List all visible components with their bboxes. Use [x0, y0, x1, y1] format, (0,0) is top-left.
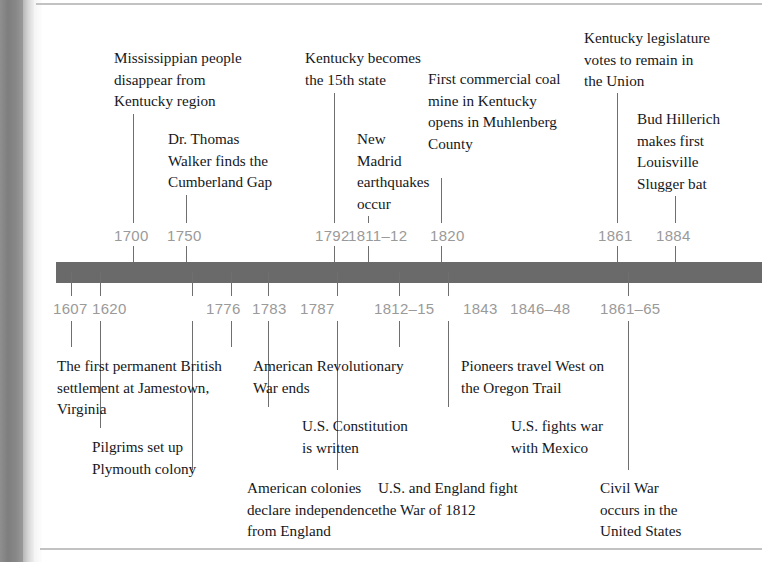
event-above-1861: Kentucky legislature votes to remain in …: [584, 27, 749, 92]
event-above-1750: Dr. Thomas Walker finds the Cumberland G…: [168, 128, 328, 193]
tick-below-1812-15: [337, 272, 338, 296]
event-line: Kentucky region: [114, 90, 294, 112]
date-above-1700: 1700: [114, 228, 149, 243]
timeline-page: Mississippian people disappear from Kent…: [0, 0, 762, 562]
event-line: Bud Hillerich: [637, 108, 749, 130]
event-above-1811-12: New Madrid earthquakes occur: [357, 128, 439, 214]
date-above-1884: 1884: [656, 228, 691, 243]
date-below-1846-48: 1846–48: [510, 301, 571, 316]
event-below-1620: Pilgrims set up Plymouth colony: [92, 436, 242, 479]
leader-below-1846-48: [448, 321, 449, 407]
date-above-1750: 1750: [167, 228, 202, 243]
event-below-1783: American Revolutionary War ends: [253, 355, 413, 398]
date-above-1820: 1820: [430, 228, 465, 243]
event-line: Dr. Thomas: [168, 128, 328, 150]
event-below-1846-48: U.S. fights war with Mexico: [511, 415, 641, 458]
event-line: American Revolutionary: [253, 355, 413, 377]
date-below-1607: 1607: [53, 301, 88, 316]
page-gutter-midtone: [23, 0, 34, 562]
event-line: Walker finds the: [168, 150, 328, 172]
date-below-1843: 1843: [463, 301, 498, 316]
event-line: with Mexico: [511, 437, 641, 459]
leader-above-1811-12: [368, 216, 369, 223]
event-line: occurs in the: [600, 499, 730, 521]
event-line: disappear from: [114, 69, 294, 91]
leader-above-1700: [133, 114, 134, 223]
bottom-rule: [40, 548, 762, 550]
event-below-1787: U.S. Constitution is written: [302, 415, 432, 458]
event-line: mine in Kentucky: [428, 90, 608, 112]
event-line: Cumberland Gap: [168, 171, 328, 193]
tick-below-1783: [231, 272, 232, 296]
event-line: U.S. fights war: [511, 415, 641, 437]
event-below-1607: The first permanent British settlement a…: [57, 355, 245, 420]
event-above-1884: Bud Hillerich makes first Louisville Slu…: [637, 108, 749, 194]
event-line: makes first: [637, 130, 749, 152]
event-line: Plymouth colony: [92, 458, 242, 480]
leader-above-1820: [441, 178, 442, 223]
leader-above-1750: [186, 195, 187, 223]
tick-below-1861-65: [628, 272, 629, 296]
tick-below-1787: [268, 272, 269, 296]
tick-below-1843: [399, 272, 400, 296]
event-line: earthquakes: [357, 171, 439, 193]
date-below-1783: 1783: [252, 301, 287, 316]
event-line: Pioneers travel West on: [461, 355, 641, 377]
leader-above-1792: [334, 93, 335, 223]
event-line: Pilgrims set up: [92, 436, 242, 458]
date-below-1812-15: 1812–15: [374, 301, 435, 316]
event-line: United States: [600, 520, 730, 542]
top-rule: [36, 3, 762, 5]
date-below-1861-65: 1861–65: [600, 301, 661, 316]
event-line: Mississippian people: [114, 47, 294, 69]
page-gutter-shadow: [0, 0, 23, 562]
leader-below-1843: [399, 321, 400, 347]
event-below-1861-65: Civil War occurs in the United States: [600, 477, 730, 542]
leader-above-1861: [617, 93, 618, 223]
event-line: First commercial coal: [428, 68, 608, 90]
event-above-1820: First commercial coal mine in Kentucky o…: [428, 68, 608, 154]
timeline-bar: [56, 262, 762, 283]
date-above-1861: 1861: [598, 228, 633, 243]
event-line: the War of 1812: [378, 499, 538, 521]
date-above-1811-12: 1811–12: [348, 228, 407, 243]
event-line: Civil War: [600, 477, 730, 499]
event-below-1843: Pioneers travel West on the Oregon Trail: [461, 355, 641, 398]
event-line: the Oregon Trail: [461, 377, 641, 399]
date-below-1787: 1787: [300, 301, 335, 316]
leader-below-1783: [231, 321, 232, 347]
event-above-1700: Mississippian people disappear from Kent…: [114, 47, 294, 112]
tick-below-1846-48: [448, 272, 449, 296]
event-line: Kentucky becomes: [305, 47, 455, 69]
event-line: the Union: [584, 70, 749, 92]
event-line: Slugger bat: [637, 173, 749, 195]
tick-below-1607: [71, 272, 72, 296]
event-line: Louisville: [637, 151, 749, 173]
event-line: The first permanent British: [57, 355, 245, 377]
tick-below-1776: [192, 272, 193, 296]
page-gutter-highlight: [34, 0, 42, 562]
event-line: Virginia: [57, 398, 245, 420]
date-below-1776: 1776: [206, 301, 241, 316]
tick-below-1620: [100, 272, 101, 296]
event-line: Madrid: [357, 150, 439, 172]
date-below-1620: 1620: [92, 301, 127, 316]
event-line: County: [428, 133, 608, 155]
event-line: votes to remain in: [584, 49, 749, 71]
event-line: is written: [302, 437, 432, 459]
event-line: U.S. and England fight: [378, 477, 538, 499]
event-line: Kentucky legislature: [584, 27, 749, 49]
event-line: from England: [247, 520, 422, 542]
event-line: War ends: [253, 377, 413, 399]
leader-below-1607: [71, 321, 72, 347]
event-line: opens in Muhlenberg: [428, 111, 608, 133]
date-above-1792: 1792: [315, 228, 350, 243]
leader-above-1884: [675, 196, 676, 223]
event-line: U.S. Constitution: [302, 415, 432, 437]
event-line: occur: [357, 193, 439, 215]
event-line: settlement at Jamestown,: [57, 377, 245, 399]
event-below-1812-15: U.S. and England fight the War of 1812: [378, 477, 538, 520]
event-line: New: [357, 128, 439, 150]
